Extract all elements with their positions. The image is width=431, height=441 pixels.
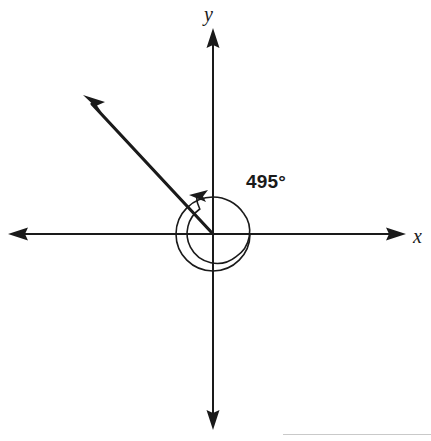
arrow-right-icon: [386, 228, 406, 241]
x-axis-label: x: [413, 226, 422, 246]
angle-measure-label: 495°: [246, 172, 286, 191]
arrow-upleft-icon: [83, 95, 105, 113]
coordinate-plane-svg: [0, 0, 431, 441]
arrow-down-icon: [207, 410, 220, 430]
rotation-arc-inner: [187, 197, 250, 264]
arrow-up-icon: [207, 28, 220, 48]
terminal-ray-line: [92, 104, 213, 234]
arrow-left-icon: [8, 228, 28, 241]
y-axis-label: y: [204, 4, 213, 24]
scan-artifact-line: [283, 434, 431, 435]
angle-diagram-figure: y x 495°: [0, 0, 431, 441]
